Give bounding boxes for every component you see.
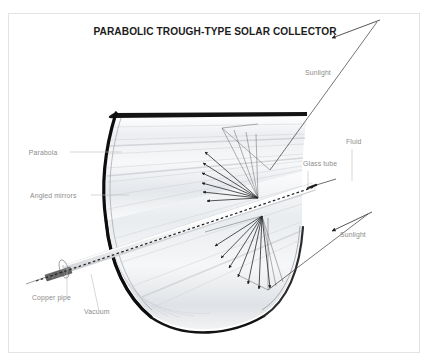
label-glass-tube: Glass tube bbox=[303, 159, 337, 168]
label-copper-pipe: Copper pipe bbox=[32, 293, 71, 302]
leader-vacuum bbox=[91, 274, 99, 311]
label-sunlight-top: Sunlight bbox=[305, 68, 331, 77]
label-angled-mirrors: Angled mirrors bbox=[30, 191, 77, 200]
sunlight-ray-top bbox=[270, 20, 380, 170]
label-parabola: Parabola bbox=[29, 148, 58, 157]
diagram-canvas: PARABOLIC TROUGH-TYPE SOLAR COLLECTOR Pa… bbox=[0, 0, 430, 364]
label-fluid: Fluid bbox=[346, 137, 362, 146]
solar-collector-illustration bbox=[0, 0, 430, 364]
label-sunlight-bottom: Sunlight bbox=[340, 230, 366, 239]
copper-pipe-body bbox=[45, 267, 72, 281]
label-vacuum: Vacuum bbox=[84, 307, 110, 316]
page-title: PARABOLIC TROUGH-TYPE SOLAR COLLECTOR bbox=[17, 25, 413, 37]
